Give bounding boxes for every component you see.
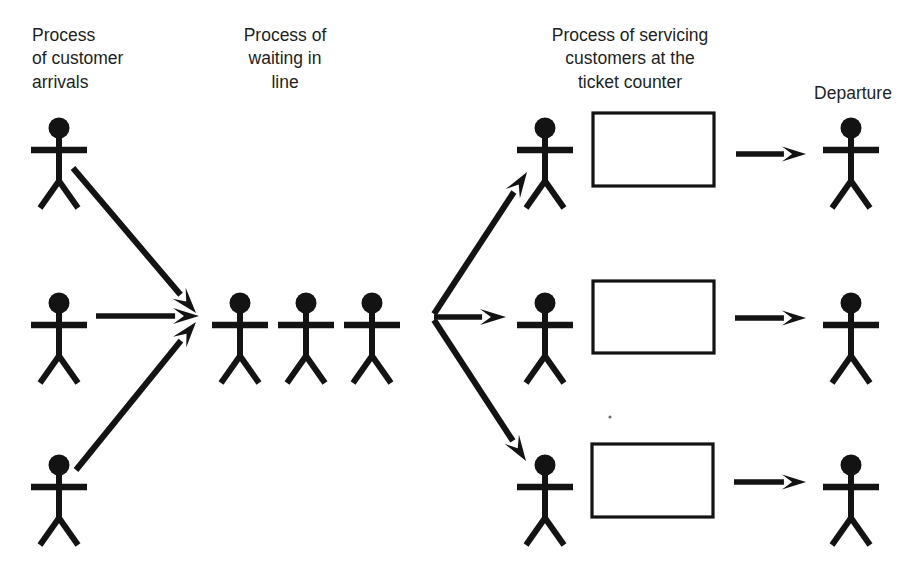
scan-speck <box>608 415 611 418</box>
ticket-counter-layer <box>592 113 714 517</box>
header-line: Process of servicing <box>552 25 709 45</box>
header-line: Departure <box>814 83 892 103</box>
header-line: Process <box>32 25 95 45</box>
scan-speck-layer <box>608 415 611 418</box>
ticket-counter-box <box>592 444 713 517</box>
header-line: customers at the <box>565 48 694 68</box>
ticket-counter-box <box>593 281 714 353</box>
header-line: arrivals <box>32 72 89 92</box>
header-line: Process of <box>244 25 327 45</box>
header-line: line <box>271 72 298 92</box>
header-line: ticket counter <box>578 72 682 92</box>
header-label-departure: Departure <box>814 83 892 103</box>
header-line: of customer <box>32 48 124 68</box>
diagram-background <box>0 0 917 573</box>
header-line: waiting in <box>248 48 322 68</box>
ticket-counter-box <box>593 113 714 186</box>
queueing-system-diagram: Processof customerarrivalsProcess ofwait… <box>0 0 917 573</box>
